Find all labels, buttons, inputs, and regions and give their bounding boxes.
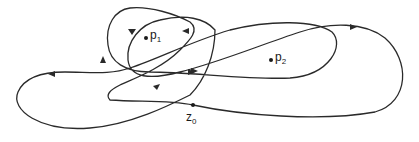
arrow-icon <box>48 71 55 77</box>
closed-curve <box>17 8 403 129</box>
closed-curve-diagram <box>0 0 419 142</box>
label-p2: p2 <box>275 51 286 66</box>
arrow-icon <box>191 68 198 74</box>
label-z0: z0 <box>186 111 196 126</box>
point-p1-dot <box>144 36 148 40</box>
point-p2-dot <box>269 58 273 62</box>
arrow-icon <box>182 28 189 34</box>
arrow-icon <box>128 29 136 35</box>
arrow-icon <box>350 24 357 30</box>
label-p1: p1 <box>150 29 161 44</box>
arrow-icon <box>153 84 160 90</box>
arrow-icon <box>100 56 106 63</box>
point-z0-dot <box>191 103 195 107</box>
